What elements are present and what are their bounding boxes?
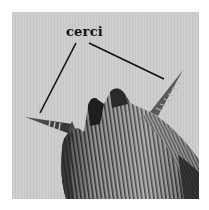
cerci-label: cerci: [66, 24, 103, 39]
specimen-illustration: [0, 0, 209, 210]
figure: cerci: [0, 0, 209, 210]
